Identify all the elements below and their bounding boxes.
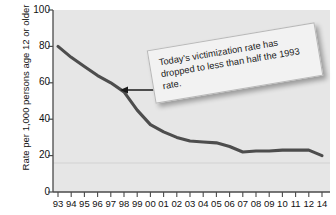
x-tick-14: 14 bbox=[313, 199, 331, 209]
x-axis-ticks bbox=[58, 192, 322, 197]
y-axis-ticks bbox=[48, 10, 53, 192]
chart-container: Rate per 1,000 persons age 12 or older 1… bbox=[0, 0, 336, 215]
